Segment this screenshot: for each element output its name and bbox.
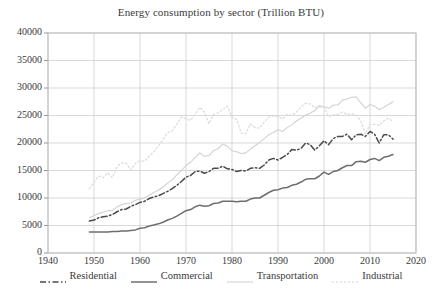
x-tick-label: 2020: [396, 255, 436, 266]
y-tick-label: 5000: [0, 219, 42, 230]
chart-page: Energy consumption by sector (Trillion B…: [0, 0, 442, 296]
series-line-transportation: [89, 97, 393, 218]
x-tick-label: 1970: [166, 255, 206, 266]
chart-legend: ResidentialCommercialTransportationIndus…: [0, 270, 442, 281]
x-tick-label: 2010: [350, 255, 390, 266]
x-tick-label: 1940: [28, 255, 68, 266]
legend-label: Commercial: [161, 270, 213, 281]
y-tick-label: 10000: [0, 191, 42, 202]
legend-swatch-residential: [40, 272, 66, 280]
legend-swatch-commercial: [131, 272, 157, 280]
legend-label: Industrial: [362, 270, 402, 281]
x-tick-label: 2000: [304, 255, 344, 266]
x-tick-label: 1980: [212, 255, 252, 266]
y-tick-label: 15000: [0, 164, 42, 175]
series-line-residential: [89, 131, 393, 221]
legend-label: Residential: [70, 270, 117, 281]
data-series-group: [89, 97, 393, 232]
y-tick-label: 35000: [0, 54, 42, 65]
legend-swatch-industrial: [332, 272, 358, 280]
y-tick-label: 40000: [0, 26, 42, 37]
gridlines: [48, 33, 416, 253]
legend-item-residential[interactable]: Residential: [40, 270, 117, 281]
axis-ticks: [44, 33, 48, 253]
y-tick-label: 30000: [0, 81, 42, 92]
x-tick-label: 1990: [258, 255, 298, 266]
legend-label: Transportation: [257, 270, 318, 281]
y-tick-label: 25000: [0, 109, 42, 120]
legend-item-industrial[interactable]: Industrial: [332, 270, 402, 281]
y-tick-label: 20000: [0, 136, 42, 147]
legend-swatch-transportation: [227, 272, 253, 280]
x-tick-label: 1950: [74, 255, 114, 266]
legend-item-commercial[interactable]: Commercial: [131, 270, 213, 281]
x-tick-label: 1960: [120, 255, 160, 266]
line-chart-svg: [0, 0, 442, 296]
plot-area: 0500010000150002000025000300003500040000…: [0, 0, 442, 296]
series-line-industrial: [89, 103, 393, 188]
series-line-commercial: [89, 155, 393, 233]
legend-item-transportation[interactable]: Transportation: [227, 270, 318, 281]
